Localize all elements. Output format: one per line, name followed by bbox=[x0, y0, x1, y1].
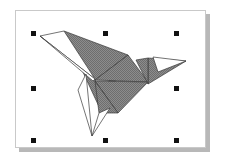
bird-triangle-group[interactable] bbox=[40, 31, 186, 136]
handle-middle-left[interactable] bbox=[31, 86, 36, 91]
handle-top-center[interactable] bbox=[103, 31, 108, 36]
handle-bottom-left[interactable] bbox=[31, 138, 36, 143]
handle-top-left[interactable] bbox=[31, 31, 36, 36]
handle-middle-right[interactable] bbox=[174, 86, 179, 91]
leg-sliver-right[interactable] bbox=[92, 108, 110, 136]
handle-top-right[interactable] bbox=[174, 31, 179, 36]
handle-bottom-right[interactable] bbox=[174, 138, 179, 143]
handle-bottom-center[interactable] bbox=[103, 138, 108, 143]
drawing-canvas[interactable] bbox=[0, 0, 226, 167]
